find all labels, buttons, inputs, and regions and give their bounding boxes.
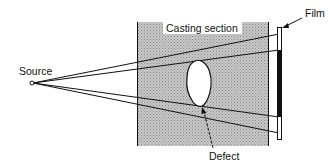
defect-label: Defect [209, 151, 239, 162]
film [277, 28, 282, 140]
casting-section-label: Casting section [166, 23, 238, 34]
film-shadow [277, 50, 282, 117]
film-label: Film [305, 8, 325, 19]
source-point [30, 81, 34, 85]
source-label: Source [19, 66, 52, 77]
film-arrow [282, 18, 302, 28]
